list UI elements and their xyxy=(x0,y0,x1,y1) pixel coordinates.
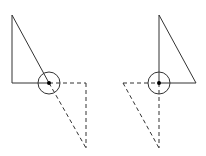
rotation-diagram xyxy=(0,0,206,156)
solid-hypotenuse-line xyxy=(159,15,196,83)
right-figure xyxy=(123,15,196,148)
pivot-dot xyxy=(157,81,161,85)
left-figure xyxy=(12,15,86,148)
pivot-dot xyxy=(47,81,51,85)
solid-hypotenuse-line xyxy=(12,15,49,83)
